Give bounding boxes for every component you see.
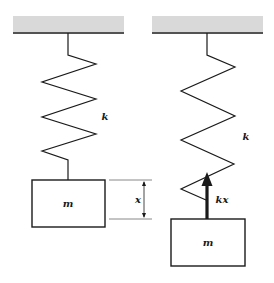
right-spring-label: k bbox=[243, 131, 250, 142]
displacement-dimension: x bbox=[109, 180, 152, 219]
dimension-arrow-down-icon bbox=[142, 213, 146, 218]
left-spring-label: k bbox=[102, 111, 109, 122]
force-label: kx bbox=[216, 194, 230, 205]
right-mass-label: m bbox=[203, 237, 214, 248]
left-ceiling bbox=[13, 16, 124, 32]
left-panel: m k x bbox=[13, 16, 152, 227]
dimension-arrow-up-icon bbox=[142, 181, 146, 186]
left-spring bbox=[42, 33, 96, 180]
left-mass-label: m bbox=[63, 198, 74, 209]
displacement-label: x bbox=[134, 194, 142, 205]
right-ceiling bbox=[152, 16, 263, 32]
right-panel: kx m k bbox=[152, 16, 263, 266]
spring-mass-diagram: m k x kx m k bbox=[0, 0, 274, 283]
